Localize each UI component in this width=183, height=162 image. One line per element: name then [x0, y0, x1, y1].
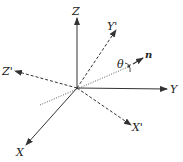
coordinate-diagram: Z Y X Y' Z' X' θ n	[0, 0, 183, 162]
label-z: Z	[71, 5, 80, 18]
label-x: X	[15, 146, 25, 159]
rotation-axis-n	[40, 67, 128, 105]
label-y-prime: Y'	[107, 20, 117, 33]
x-axis	[26, 88, 77, 145]
n-vector-arrow	[133, 58, 143, 64]
label-n: n	[145, 49, 152, 60]
label-theta: θ	[117, 58, 124, 71]
z-prime-axis	[15, 71, 77, 88]
y-prime-axis	[77, 30, 116, 88]
label-x-prime: X'	[131, 121, 143, 134]
label-z-prime: Z'	[1, 65, 13, 78]
x-prime-axis	[77, 88, 131, 125]
y-axis	[77, 88, 167, 89]
label-y: Y	[170, 83, 179, 96]
